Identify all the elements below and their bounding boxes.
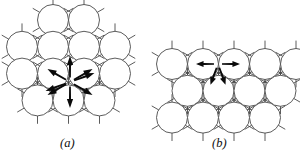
- lattice-circle: [100, 58, 131, 89]
- lattice-spike: [128, 62, 134, 66]
- lattice-spike: [18, 108, 24, 112]
- lattice-spike: [152, 53, 158, 57]
- lattice-circle: [157, 102, 188, 133]
- lattice-spike: [278, 125, 284, 129]
- lattice-diagram-canvas: [0, 0, 300, 158]
- lattice-spike: [128, 55, 134, 59]
- lattice-spike: [152, 125, 158, 129]
- lattice-circle: [38, 31, 69, 62]
- lattice-spike: [2, 62, 8, 66]
- lattice-circle: [250, 49, 281, 80]
- lattice-spike: [294, 99, 300, 103]
- lattice-spike: [97, 28, 103, 32]
- lattice-circle: [100, 31, 131, 62]
- lattice-spike: [33, 28, 39, 32]
- lattice-spike: [2, 55, 8, 59]
- lattice-circle: [250, 102, 281, 133]
- lattice-spike: [152, 72, 158, 76]
- figure-root: (a) (b): [0, 0, 300, 158]
- lattice-circle: [219, 102, 250, 133]
- lattice-circle-group-b: [157, 49, 301, 134]
- panel-a: [2, 0, 135, 123]
- lattice-spike: [2, 81, 8, 85]
- panel-label-b: (b): [212, 136, 227, 151]
- lattice-circle: [234, 75, 265, 106]
- lattice-spike: [128, 35, 134, 39]
- lattice-circle: [265, 75, 296, 106]
- lattice-circle: [203, 75, 234, 106]
- lattice-spike: [113, 108, 119, 112]
- lattice-circle: [157, 49, 188, 80]
- lattice-spike: [152, 106, 158, 110]
- lattice-circle: [172, 75, 203, 106]
- lattice-circle: [7, 31, 38, 62]
- lattice-circle: [69, 31, 100, 62]
- panel-b: [152, 41, 300, 141]
- panel-label-a: (a): [60, 136, 75, 151]
- lattice-spike: [128, 81, 134, 85]
- lattice-circle: [188, 102, 219, 133]
- lattice-circle: [7, 58, 38, 89]
- lattice-spike: [97, 9, 103, 13]
- lattice-circle: [84, 85, 115, 116]
- lattice-spike: [2, 35, 8, 39]
- lattice-spike: [33, 9, 39, 13]
